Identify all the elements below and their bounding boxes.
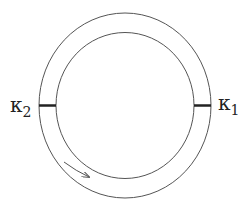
coupler-k1-label: κ1 [218,91,239,118]
outer-ring [39,13,211,198]
coupler-k2-label: κ2 [10,93,31,120]
ring-diagram: κ2 κ1 [0,0,243,209]
inner-ring [56,33,194,179]
